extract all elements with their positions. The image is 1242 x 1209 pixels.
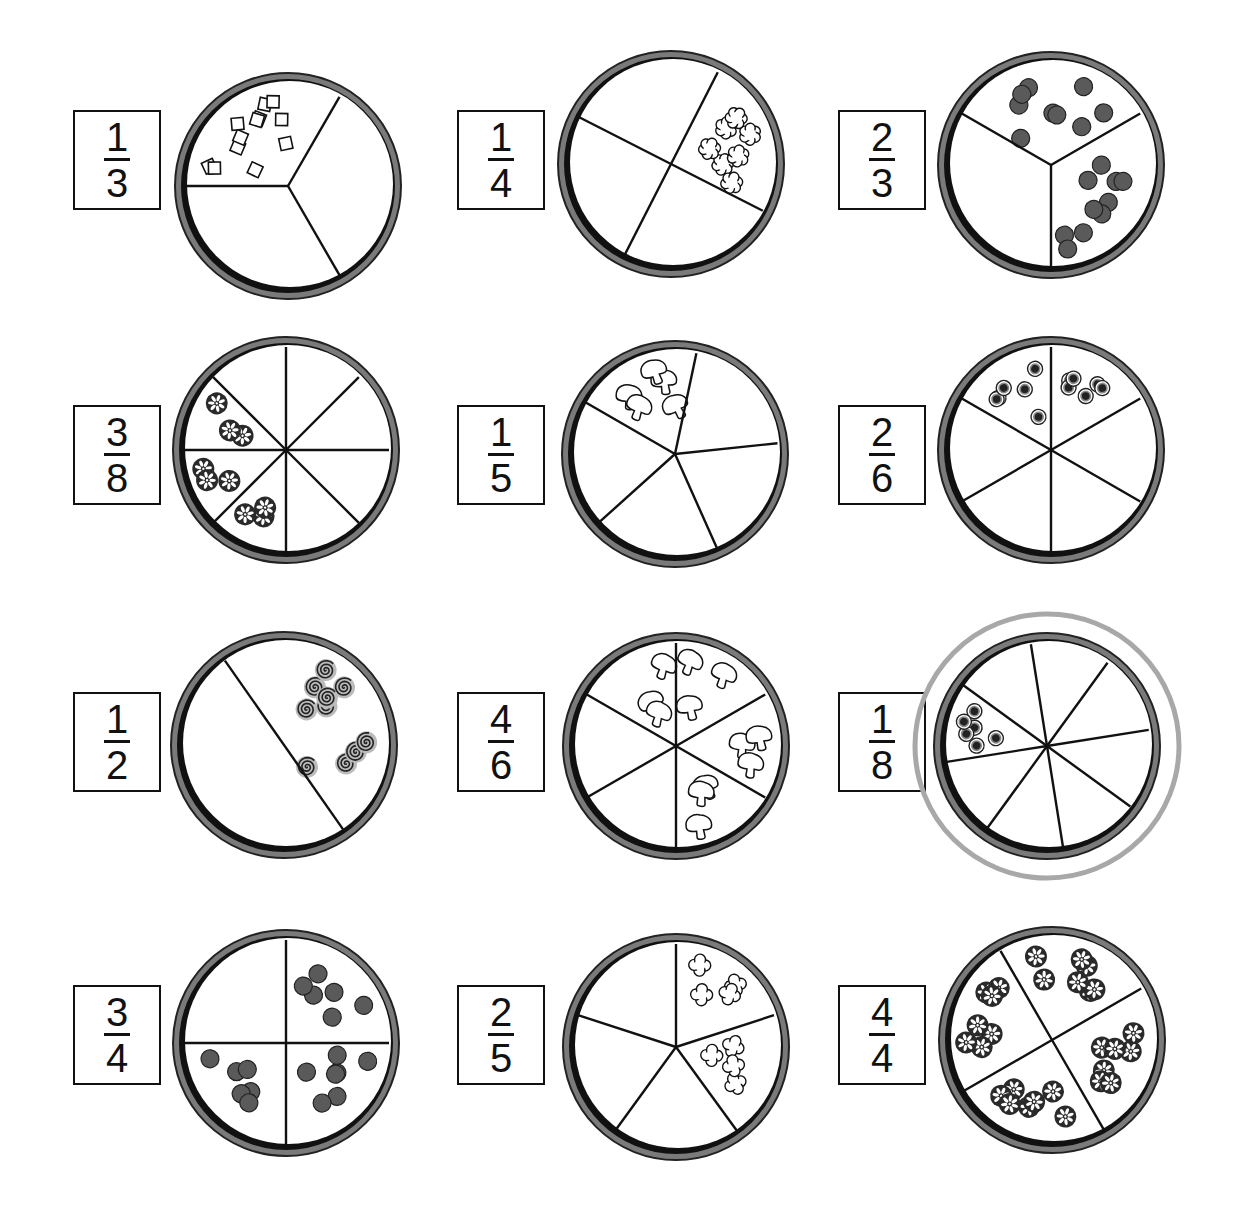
pizza-3-8[interactable] — [166, 330, 406, 570]
fraction-numerator: 2 — [490, 993, 512, 1031]
fraction-label-4-6: 4 6 — [457, 692, 545, 792]
fraction-numerator: 1 — [106, 118, 128, 156]
dot-topping-icon — [1094, 104, 1113, 123]
fraction-label-1-3: 1 3 — [73, 110, 161, 210]
fraction-numerator: 1 — [490, 413, 512, 451]
square-topping-icon — [208, 162, 220, 174]
fraction-denominator: 3 — [106, 164, 128, 202]
fraction-denominator: 6 — [871, 459, 893, 497]
fraction-denominator: 8 — [871, 746, 893, 784]
pizza-1-4[interactable] — [551, 44, 791, 284]
fraction-label-1-4: 1 4 — [457, 110, 545, 210]
fraction-label-1-5: 1 5 — [457, 405, 545, 505]
pizza-1-2[interactable] — [164, 625, 404, 865]
fraction-numerator: 1 — [871, 700, 893, 738]
fraction-denominator: 8 — [106, 459, 128, 497]
fraction-numerator: 4 — [871, 993, 893, 1031]
fraction-numerator: 2 — [871, 118, 893, 156]
fraction-denominator: 3 — [871, 164, 893, 202]
fraction-label-3-4: 3 4 — [73, 985, 161, 1085]
fraction-denominator: 4 — [871, 1039, 893, 1077]
fraction-label-3-8: 3 8 — [73, 405, 161, 505]
fraction-denominator: 2 — [106, 746, 128, 784]
fraction-numerator: 2 — [871, 413, 893, 451]
fraction-numerator: 4 — [490, 700, 512, 738]
square-topping-icon — [231, 117, 244, 130]
square-topping-icon — [279, 136, 293, 150]
pizza-2-3[interactable] — [931, 45, 1171, 285]
fraction-denominator: 5 — [490, 459, 512, 497]
pizza-1-3[interactable] — [168, 66, 408, 306]
fraction-label-2-6: 2 6 — [838, 405, 926, 505]
pizza-2-5[interactable] — [556, 927, 796, 1167]
fraction-numerator: 1 — [106, 700, 128, 738]
pizza-1-5[interactable] — [555, 334, 795, 574]
square-topping-icon — [276, 113, 288, 125]
fraction-numerator: 3 — [106, 993, 128, 1031]
fraction-numerator: 3 — [106, 413, 128, 451]
fraction-denominator: 4 — [106, 1039, 128, 1077]
olive-topping-icon — [1017, 381, 1033, 397]
fraction-denominator: 4 — [490, 164, 512, 202]
fraction-label-1-2: 1 2 — [73, 692, 161, 792]
fraction-label-2-5: 2 5 — [457, 985, 545, 1085]
pizza-4-4[interactable] — [932, 920, 1172, 1160]
square-topping-icon — [267, 96, 279, 108]
fraction-denominator: 5 — [490, 1039, 512, 1077]
pizza-4-6[interactable] — [556, 626, 796, 866]
fraction-label-4-4: 4 4 — [838, 985, 926, 1085]
fraction-label-2-3: 2 3 — [838, 110, 926, 210]
square-topping-icon — [250, 113, 265, 128]
pizza-3-4[interactable] — [166, 923, 406, 1163]
pizza-2-6[interactable] — [931, 330, 1171, 570]
fraction-denominator: 6 — [490, 746, 512, 784]
dot-topping-icon — [1059, 240, 1077, 258]
fraction-numerator: 1 — [490, 118, 512, 156]
pizza-1-8[interactable] — [907, 606, 1187, 886]
